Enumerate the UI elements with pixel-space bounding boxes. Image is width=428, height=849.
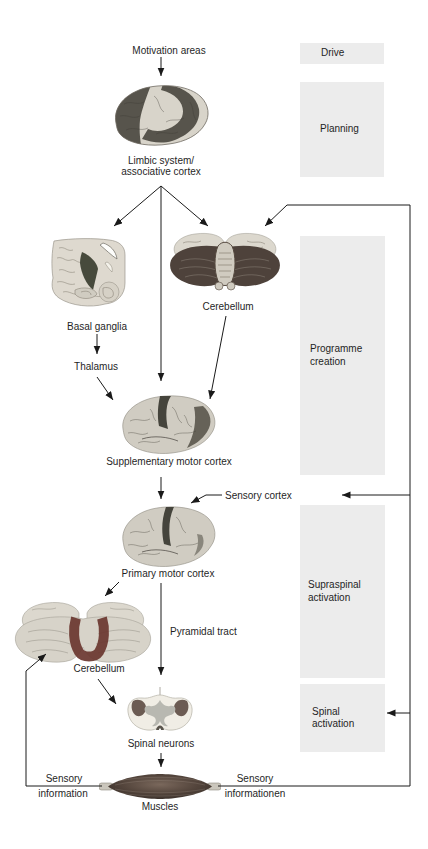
label-sensory-information-left-line2: information xyxy=(38,788,87,799)
stage-box-programme-creation: Programme creation xyxy=(300,236,385,475)
label-sensory-information-right-line2: informationen xyxy=(225,788,286,799)
stage-box-supraspinal-activation: Supraspinal activation xyxy=(300,505,385,678)
stage-label-drive: Drive xyxy=(321,47,344,60)
label-supplementary-motor-cortex: Supplementary motor cortex xyxy=(106,456,232,467)
label-cerebellum-upper: Cerebellum xyxy=(202,301,253,312)
arrow-left-feedback-to-cerebellum xyxy=(26,654,46,786)
primary-motor-cortex-image xyxy=(114,503,221,569)
cerebellum-upper-image xyxy=(167,231,283,294)
arrow-sensory-cortex-pointer xyxy=(191,495,222,503)
arrow-limbic-to-cerebellum xyxy=(161,186,208,226)
arrow-cerebellum-to-spinal xyxy=(98,679,116,704)
motor-control-diagram: Drive Planning Programme creation Supras… xyxy=(0,0,428,849)
arrow-thalamus-to-smc xyxy=(97,377,113,400)
stage-box-planning: Planning xyxy=(300,82,384,177)
muscle-image xyxy=(99,774,221,799)
stage-box-drive: Drive xyxy=(300,43,384,64)
label-pyramidal-tract: Pyramidal tract xyxy=(170,626,237,637)
label-basal-ganglia: Basal ganglia xyxy=(67,321,127,332)
stage-box-spinal-activation: Spinal activation xyxy=(300,684,385,752)
cerebellum-lower-image xyxy=(12,600,154,669)
label-motivation-areas: Motivation areas xyxy=(132,45,205,56)
limbic-brain-image xyxy=(106,82,214,151)
label-spinal-neurons: Spinal neurons xyxy=(128,738,195,749)
label-muscles: Muscles xyxy=(142,801,179,812)
arrow-pmc-to-cerebellum xyxy=(105,582,119,596)
stage-label-supraspinal-activation: Supraspinal activation xyxy=(308,579,361,604)
stage-label-planning: Planning xyxy=(320,123,359,136)
label-thalamus: Thalamus xyxy=(74,361,118,372)
arrow-cerebellum-to-smc xyxy=(210,316,226,399)
label-sensory-information-right-line1: Sensory xyxy=(237,773,274,784)
basal-ganglia-image xyxy=(47,236,131,310)
label-primary-motor-cortex: Primary motor cortex xyxy=(122,568,215,579)
label-limbic-system: Limbic system/ associative cortex xyxy=(121,155,200,177)
label-sensory-information-left-line1: Sensory xyxy=(46,773,83,784)
stage-label-spinal-activation: Spinal activation xyxy=(312,706,354,731)
label-cerebellum-lower: Cerebellum xyxy=(73,663,124,674)
supplementary-motor-cortex-image xyxy=(114,393,221,455)
spinal-cord-section-image xyxy=(124,687,196,735)
label-sensory-cortex: Sensory cortex xyxy=(225,490,292,501)
arrow-limbic-to-basal-ganglia xyxy=(114,186,161,226)
stage-label-programme-creation: Programme creation xyxy=(310,343,362,368)
